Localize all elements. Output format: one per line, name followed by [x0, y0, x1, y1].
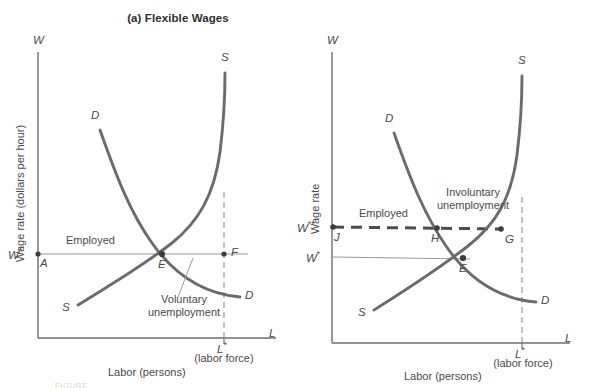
- panel-a-labor-force-note: (labor force): [182, 352, 266, 365]
- panel-a-supply-label-bottom: S: [62, 301, 70, 313]
- panel-b-point-g-label: G: [505, 233, 514, 245]
- panel-b-y-axis-tip: W: [327, 34, 338, 46]
- panel-a-point-a-label: A: [40, 257, 48, 269]
- panel-b-unemployment-annotation-line2: unemployment: [413, 199, 533, 212]
- panel-b-supply-label-top: S: [518, 54, 526, 66]
- figure-root: (a) Flexible Wages: [0, 0, 591, 388]
- panel-a-unemployment-annotation-line1: Voluntary: [128, 293, 240, 306]
- panel-a-point-a: [35, 251, 40, 256]
- panel-b-point-e: [460, 255, 466, 261]
- panel-a-supply-label-top: S: [221, 51, 229, 63]
- panel-b-demand-label-bottom: D: [541, 294, 549, 306]
- panel-b-x-axis-tip: L: [565, 332, 571, 344]
- panel-a-x-axis-tip: L: [269, 327, 275, 339]
- panel-b-labor-force-note: (labor force): [481, 357, 565, 370]
- panel-a-x-axis-label: Labor (persons): [108, 366, 186, 378]
- footer-ghost-text: FIGURE: [55, 381, 88, 388]
- panel-a-equilibrium-label: E: [158, 258, 166, 270]
- panel-a-leader-line: [178, 258, 193, 297]
- panel-b-x-axis-label: Labor (persons): [404, 370, 482, 382]
- panel-a-supply-curve: [78, 73, 225, 305]
- panel-a-point-f-label: F: [231, 246, 238, 258]
- panel-b-point-h: [434, 225, 440, 231]
- panel-a-point-e: [159, 251, 165, 257]
- panel-b-point-j: [330, 224, 336, 230]
- panel-a-employed-annotation: Employed: [66, 234, 115, 247]
- panel-b-supply-label-bottom: S: [358, 306, 366, 318]
- panel-b-wage-equilibrium-label: W*: [306, 249, 320, 264]
- panel-b-equilibrium-label: E: [459, 262, 467, 274]
- panel-b-rigid-wage-label: W**: [297, 219, 314, 234]
- panel-a-demand-label-bottom: D: [245, 289, 253, 301]
- panel-a-y-axis-tip: W: [33, 34, 44, 46]
- panel-b-demand-label-top: D: [385, 112, 393, 124]
- panel-b-rigid-wage-line: [333, 227, 502, 229]
- panel-a-wage-equilibrium-label: W*: [8, 246, 22, 261]
- panel-b-point-h-label: H: [431, 232, 439, 244]
- panel-b-point-g: [498, 226, 504, 232]
- panel-a-y-axis-label: Wage rate (dollars per hour): [14, 125, 26, 262]
- panel-a-demand-label-top: D: [91, 109, 99, 121]
- panel-a-unemployment-annotation-line2: unemployment: [128, 306, 240, 319]
- panel-b-unemployment-annotation-line1: Involuntary: [413, 186, 533, 199]
- panel-b-employed-annotation: Employed: [359, 207, 408, 220]
- panel-b-demand-curve: [394, 133, 536, 302]
- panel-b-point-j-label: J: [334, 231, 340, 243]
- panel-a-point-f: [221, 251, 226, 256]
